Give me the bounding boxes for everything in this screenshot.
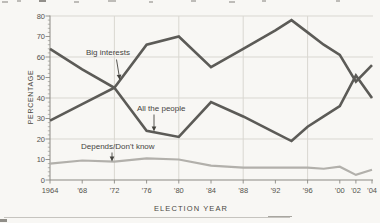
- depends-dont-know-label: Depends/Don't know: [81, 142, 155, 151]
- x-tick-label: ’96: [294, 186, 322, 195]
- x-tick-label: ’92: [261, 186, 289, 195]
- y-tick-label: 70: [28, 32, 45, 41]
- line-chart-figure: 010203040506070801964’68’72’76’80’84’88’…: [0, 0, 380, 223]
- bottom-rule-dark-artifact: [268, 216, 292, 218]
- x-tick-label: ’72: [100, 186, 128, 195]
- y-tick-label: 20: [28, 135, 45, 144]
- bottom-rule-artifact: [4, 217, 290, 218]
- series-line-big-interests: [50, 20, 372, 120]
- depends-dont-know-arrow: [110, 153, 115, 162]
- bottom-corner-artifact: [0, 219, 7, 222]
- big-interests-label: Big interests: [86, 48, 130, 57]
- y-axis-title: PERCENTAGE: [27, 70, 34, 125]
- x-tick-label: ’84: [197, 186, 225, 195]
- x-tick-label: 1964: [36, 186, 64, 195]
- all-the-people-arrow: [152, 115, 157, 132]
- all-the-people-label: All the people: [137, 104, 185, 113]
- x-tick-label: ’76: [133, 186, 161, 195]
- x-tick-label: ’04: [358, 186, 380, 195]
- series-line-depends-don-t-know: [50, 158, 372, 174]
- x-tick-label: ’88: [229, 186, 257, 195]
- y-tick-label: 10: [28, 155, 45, 164]
- y-tick-label: 80: [28, 12, 45, 21]
- x-tick-label: ’80: [165, 186, 193, 195]
- x-tick-label: ’68: [68, 186, 96, 195]
- big-interests-arrow: [117, 60, 122, 81]
- y-tick-label: 0: [28, 176, 45, 185]
- y-tick-label: 60: [28, 53, 45, 62]
- x-axis-title: ELECTION YEAR: [154, 204, 228, 213]
